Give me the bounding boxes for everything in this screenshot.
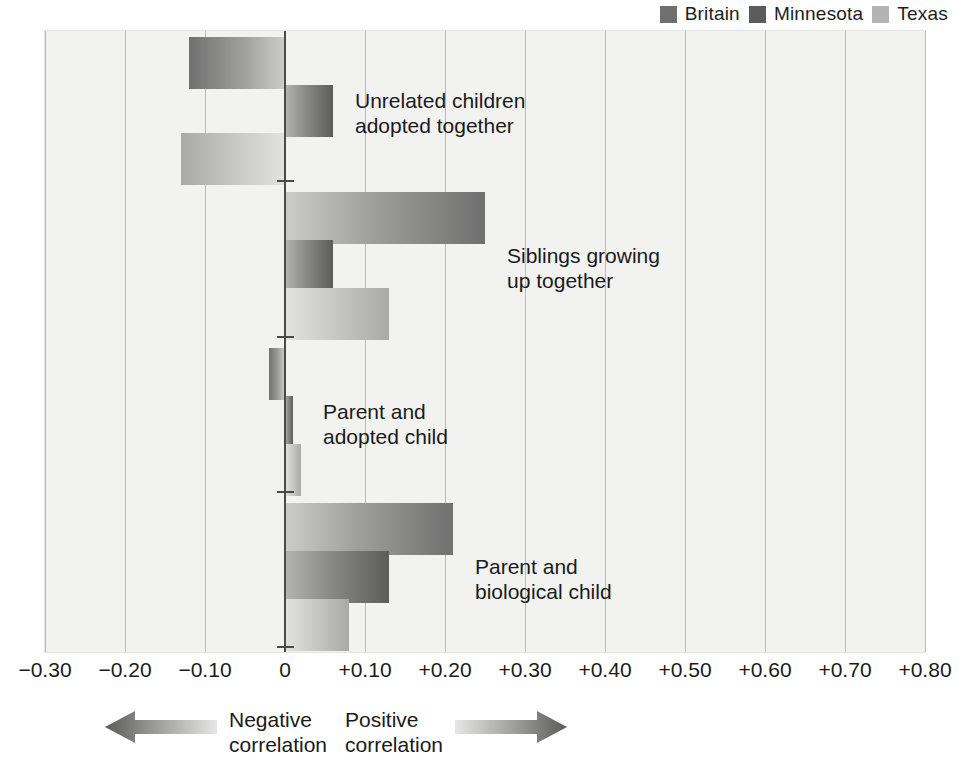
bar-minnesota	[285, 551, 389, 603]
group-label: Parent and biological child	[475, 554, 612, 604]
positive-correlation-annotation: Positive correlation	[345, 706, 567, 757]
arrow-left-icon	[105, 710, 217, 744]
legend-label: Minnesota	[774, 3, 863, 25]
bar-britain	[285, 192, 485, 244]
x-tick-label: +0.40	[578, 658, 631, 682]
x-tick-label: +0.50	[658, 658, 711, 682]
legend-label: Britain	[685, 3, 740, 25]
gridline	[845, 31, 846, 652]
bar-britain	[269, 348, 285, 400]
group-label: Parent and adopted child	[323, 399, 448, 449]
legend-swatch-icon	[660, 6, 677, 23]
bar-texas	[285, 444, 301, 496]
bar-minnesota	[285, 240, 333, 292]
bar-minnesota	[285, 396, 293, 448]
arrow-right-icon	[455, 710, 567, 744]
group-label: Siblings growing up together	[507, 243, 660, 293]
bar-britain	[285, 503, 453, 555]
negative-correlation-label: Negative correlation	[229, 706, 327, 757]
bar-britain	[189, 37, 285, 89]
legend-item-britain: Britain	[660, 3, 740, 25]
x-tick-label: +0.70	[818, 658, 871, 682]
x-tick-label: 0	[279, 658, 291, 682]
negative-correlation-annotation: Negative correlation	[105, 706, 327, 757]
chart-legend: Britain Minnesota Texas	[660, 2, 948, 26]
legend-item-texas: Texas	[872, 3, 948, 25]
zero-axis-tick	[277, 646, 294, 648]
x-tick-label: −0.20	[98, 658, 151, 682]
gridline	[125, 31, 126, 652]
x-tick-label: −0.10	[178, 658, 231, 682]
gridline	[685, 31, 686, 652]
gridline	[45, 31, 46, 652]
zero-axis-line	[284, 31, 286, 652]
legend-label: Texas	[897, 3, 948, 25]
chart-plot-area: Unrelated children adopted togetherSibli…	[45, 31, 925, 652]
gridline	[205, 31, 206, 652]
legend-swatch-icon	[749, 6, 766, 23]
bar-texas	[181, 133, 285, 185]
positive-correlation-label: Positive correlation	[345, 706, 443, 757]
x-tick-label: +0.60	[738, 658, 791, 682]
legend-item-minnesota: Minnesota	[749, 3, 863, 25]
group-label: Unrelated children adopted together	[355, 88, 525, 138]
bar-minnesota	[285, 85, 333, 137]
bar-texas	[285, 599, 349, 651]
zero-axis-tick	[277, 336, 294, 338]
x-tick-label: +0.10	[338, 658, 391, 682]
x-tick-label: +0.20	[418, 658, 471, 682]
bar-texas	[285, 288, 389, 340]
zero-axis-tick	[277, 491, 294, 493]
x-tick-label: −0.30	[18, 658, 71, 682]
chart-footer-legend: Negative correlation Positive correlatio…	[0, 700, 970, 761]
x-tick-label: +0.80	[898, 658, 951, 682]
x-tick-label: +0.30	[498, 658, 551, 682]
gridline	[925, 31, 926, 652]
zero-axis-tick	[277, 180, 294, 182]
x-axis-tick-labels: −0.30−0.20−0.100+0.10+0.20+0.30+0.40+0.5…	[0, 658, 970, 692]
gridline	[765, 31, 766, 652]
legend-swatch-icon	[872, 6, 889, 23]
